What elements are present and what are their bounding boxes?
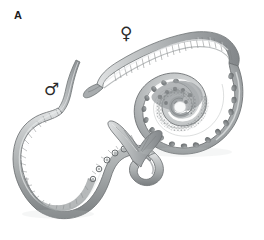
male-ground-shadow (22, 210, 94, 219)
female-sex-symbol: ♀ (120, 25, 132, 42)
female-worm (83, 32, 242, 155)
female-ground-shadow (140, 147, 232, 157)
male-head (57, 60, 80, 113)
male-worm (13, 60, 163, 219)
figure-panel-a: A (0, 0, 264, 240)
male-sex-symbol: ♂ (44, 81, 59, 98)
female-head (83, 84, 103, 98)
